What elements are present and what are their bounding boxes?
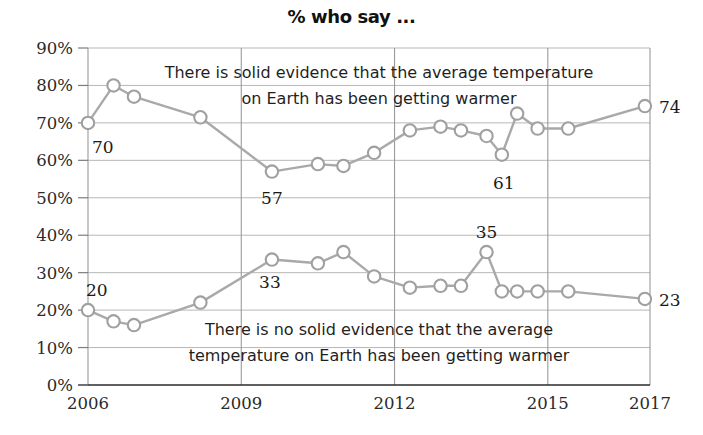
data-point-marker bbox=[128, 90, 140, 102]
data-point-marker bbox=[368, 147, 380, 159]
series-layer bbox=[82, 79, 651, 331]
x-axis-tick-group: 20062009201220152017 bbox=[67, 394, 671, 413]
y-axis-tick-label: 60% bbox=[36, 151, 73, 170]
chart-title: % who say ... bbox=[0, 6, 703, 27]
x-axis-tick-label: 2009 bbox=[220, 394, 262, 413]
data-point-marker bbox=[562, 122, 574, 134]
y-axis-tick-label: 30% bbox=[36, 264, 73, 283]
series-line-no-solid-evidence bbox=[88, 252, 645, 325]
data-point-marker bbox=[128, 319, 140, 331]
data-value-label: 61 bbox=[493, 173, 515, 193]
data-point-marker bbox=[368, 270, 380, 282]
annotation-layer: There is solid evidence that the average… bbox=[164, 63, 594, 365]
data-point-marker bbox=[496, 149, 508, 161]
data-value-label: 70 bbox=[92, 137, 114, 157]
data-value-label: 20 bbox=[86, 280, 108, 300]
y-axis-tick-label: 50% bbox=[36, 189, 73, 208]
y-axis-tick-group: 0%10%20%30%40%50%60%70%80%90% bbox=[36, 39, 88, 395]
data-point-marker bbox=[107, 315, 119, 327]
annotation-line: There is solid evidence that the average… bbox=[164, 63, 594, 82]
data-point-marker bbox=[266, 253, 278, 265]
data-point-marker bbox=[531, 285, 543, 297]
data-point-marker bbox=[480, 246, 492, 258]
data-point-marker bbox=[107, 79, 119, 91]
data-value-label: 23 bbox=[659, 290, 681, 310]
data-point-marker bbox=[312, 158, 324, 170]
data-point-marker bbox=[434, 120, 446, 132]
x-axis-tick-label: 2012 bbox=[374, 394, 416, 413]
data-point-marker bbox=[404, 281, 416, 293]
annotation-line: on Earth has been getting warmer bbox=[241, 89, 516, 108]
x-axis-tick-label: 2006 bbox=[67, 394, 109, 413]
y-axis-tick-label: 70% bbox=[36, 114, 73, 133]
lower-annotation: There is no solid evidence that the aver… bbox=[189, 320, 570, 365]
x-axis-tick-label: 2015 bbox=[527, 394, 569, 413]
data-point-marker bbox=[562, 285, 574, 297]
data-label-layer: 7057617420333523 bbox=[86, 97, 681, 310]
y-axis-tick-label: 20% bbox=[36, 301, 73, 320]
chart-plot-svg: 0%10%20%30%40%50%60%70%80%90% 2006200920… bbox=[0, 0, 703, 435]
data-point-marker bbox=[337, 160, 349, 172]
x-axis-tick-label: 2017 bbox=[629, 394, 671, 413]
data-point-marker bbox=[82, 304, 94, 316]
data-point-marker bbox=[82, 117, 94, 129]
data-point-marker bbox=[496, 285, 508, 297]
y-axis-tick-label: 90% bbox=[36, 39, 73, 58]
data-point-marker bbox=[480, 130, 492, 142]
data-point-marker bbox=[455, 124, 467, 136]
data-point-marker bbox=[312, 257, 324, 269]
data-value-label: 57 bbox=[261, 188, 283, 208]
data-value-label: 33 bbox=[259, 272, 281, 292]
data-point-marker bbox=[455, 280, 467, 292]
data-value-label: 35 bbox=[476, 222, 498, 242]
y-axis-tick-label: 80% bbox=[36, 76, 73, 95]
annotation-line: There is no solid evidence that the aver… bbox=[204, 320, 553, 339]
data-point-marker bbox=[511, 285, 523, 297]
data-point-marker bbox=[531, 122, 543, 134]
annotation-line: temperature on Earth has been getting wa… bbox=[189, 346, 570, 365]
y-axis-tick-label: 10% bbox=[36, 339, 73, 358]
data-point-marker bbox=[639, 100, 651, 112]
data-value-label: 74 bbox=[659, 97, 681, 117]
data-point-marker bbox=[194, 111, 206, 123]
data-point-marker bbox=[337, 246, 349, 258]
data-point-marker bbox=[434, 280, 446, 292]
data-point-marker bbox=[194, 296, 206, 308]
data-point-marker bbox=[404, 124, 416, 136]
y-axis-tick-label: 0% bbox=[47, 376, 73, 395]
data-point-marker bbox=[639, 293, 651, 305]
chart-container: % who say ... 0%10%20%30%40%50%60%70%80%… bbox=[0, 0, 703, 435]
data-point-marker bbox=[266, 165, 278, 177]
data-point-marker bbox=[511, 107, 523, 119]
y-axis-tick-label: 40% bbox=[36, 226, 73, 245]
